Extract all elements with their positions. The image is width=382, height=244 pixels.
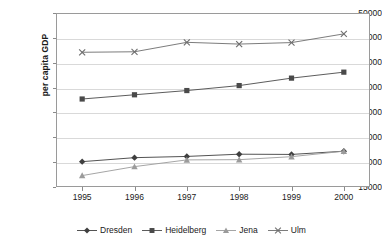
series-layer [56, 13, 370, 187]
data-point-square [150, 228, 155, 233]
x-axis-tick-label: 1995 [60, 192, 104, 202]
legend-item-dresden[interactable]: Dresden [76, 225, 132, 236]
x-axis-tick-mark [187, 187, 188, 191]
data-point-square [184, 88, 189, 93]
x-axis-tick-label: 1996 [113, 192, 157, 202]
y-axis-tick-mark [53, 187, 56, 188]
series-line [82, 72, 344, 99]
x-axis-tick-label: 2000 [322, 192, 366, 202]
data-point-diamond [84, 227, 90, 233]
series-dresden [79, 148, 347, 165]
data-point-diamond [79, 158, 85, 164]
y-axis-title: per capita GDP [40, 15, 54, 115]
legend-label: Ulm [291, 225, 306, 235]
legend-marker-square-icon [141, 225, 163, 236]
x-axis-tick-mark [292, 187, 293, 191]
legend-label: Heidelberg [165, 225, 206, 235]
legend-item-ulm[interactable]: Ulm [267, 225, 306, 236]
x-axis-tick-mark [135, 187, 136, 191]
data-point-square [132, 92, 137, 97]
data-point-diamond [236, 151, 242, 157]
x-axis-tick-label: 1998 [217, 192, 261, 202]
x-axis-tick-mark [82, 187, 83, 191]
chart-container: per capita GDP 1500020000250003000035000… [0, 0, 382, 244]
data-point-square [80, 96, 85, 101]
legend-item-jena[interactable]: Jena [215, 225, 257, 236]
legend-item-heidelberg[interactable]: Heidelberg [141, 225, 206, 236]
legend-label: Jena [239, 225, 257, 235]
x-axis-tick-label: 1999 [270, 192, 314, 202]
legend-marker-triangle-icon [215, 225, 237, 236]
data-point-square [237, 83, 242, 88]
series-line [82, 34, 344, 52]
x-axis-tick-label: 1997 [165, 192, 209, 202]
data-point-square [341, 70, 346, 75]
data-point-square [289, 76, 294, 81]
legend-label: Dresden [100, 225, 132, 235]
legend-marker-diamond-icon [76, 225, 98, 236]
legend-marker-cross-icon [267, 225, 289, 236]
series-jena [79, 148, 347, 178]
x-axis-tick-mark [239, 187, 240, 191]
series-heidelberg [80, 70, 347, 102]
chart-legend: DresdenHeidelbergJenaUlm [0, 222, 382, 238]
data-point-diamond [131, 154, 137, 160]
series-ulm [79, 31, 347, 55]
x-axis-tick-mark [344, 187, 345, 191]
